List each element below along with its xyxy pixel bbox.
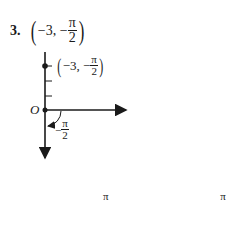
conversion-equations: x = −3 cos ( − π 2 ) = 0; y = −3 sin ( −…: [31, 169, 248, 202]
point-label-r: −3, −: [63, 58, 91, 74]
origin-label: O: [30, 102, 39, 118]
origin-point: [43, 108, 48, 113]
point-label: ( −3, − π 2 ): [56, 54, 105, 77]
point-label-fraction: π 2: [90, 54, 98, 77]
angle-label: − π 2: [55, 118, 69, 141]
